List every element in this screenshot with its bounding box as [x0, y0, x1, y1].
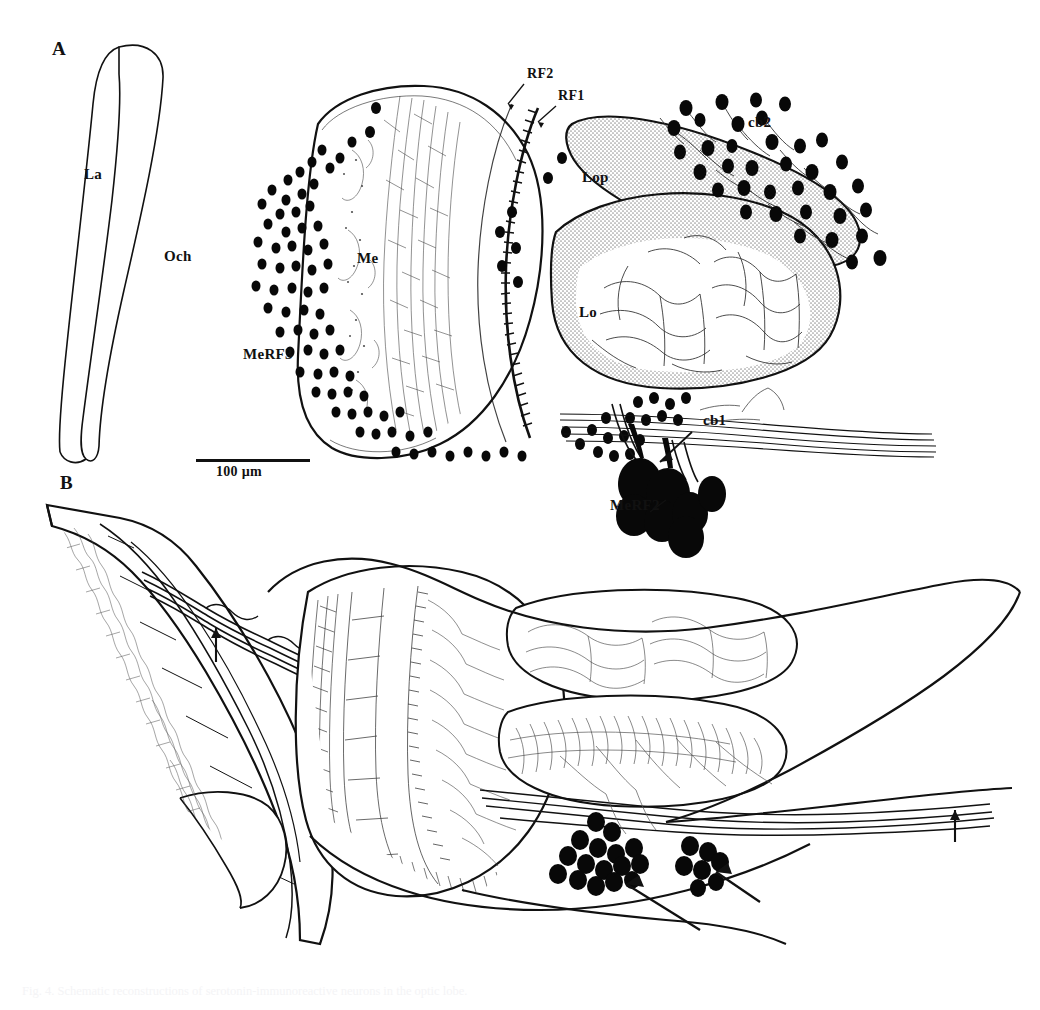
- scale-bar-label: 100 µm: [216, 464, 262, 480]
- soma-cluster-right-b: [675, 836, 729, 897]
- label-cb2: cb2: [748, 114, 771, 131]
- label-lop: Lop: [582, 169, 609, 186]
- rf1-arrowhead: [538, 122, 544, 128]
- label-lo: Lo: [579, 304, 597, 321]
- label-och: Och: [164, 248, 192, 265]
- label-la: La: [84, 166, 102, 183]
- rf2-leader: [508, 84, 524, 104]
- panel-a-letter: A: [52, 38, 66, 60]
- label-merf2: MeRF2: [610, 497, 660, 514]
- panel-a-drawing: [59, 45, 936, 558]
- lamina-outline-b: [47, 505, 333, 944]
- label-cb1: cb1: [703, 412, 726, 429]
- scale-bar-line: [196, 459, 310, 462]
- panel-b-drawing: [47, 505, 1020, 944]
- label-rf2: RF2: [527, 66, 554, 82]
- rf1-leader: [538, 106, 556, 122]
- lobula-a: [551, 193, 840, 388]
- figure-caption: Fig. 4. Schematic reconstructions of ser…: [22, 984, 1022, 1000]
- rf2-arrowhead: [508, 104, 514, 110]
- ventral-border-b: [462, 890, 786, 944]
- figure-root: A La Och Me MeRF3 RF2 RF1 Lop Lo cb2 cb1…: [0, 0, 1040, 1010]
- label-me: Me: [357, 250, 378, 267]
- lobula-plate-outline-b: [507, 590, 797, 701]
- merf2-soma-cluster-a: [616, 424, 726, 558]
- label-merf3: MeRF3: [243, 346, 293, 363]
- panel-b-letter: B: [60, 472, 73, 494]
- lamina-outline-a: [59, 45, 163, 462]
- figure-canvas: [0, 0, 1040, 1010]
- label-rf1: RF1: [558, 88, 585, 104]
